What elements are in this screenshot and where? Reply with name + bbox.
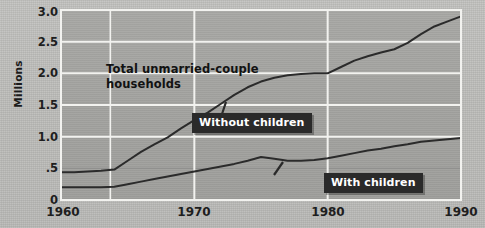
without-children-callout: Without children — [192, 113, 312, 133]
chart-screenshot: Millions 0 .5 1.0 1.5 2.0 2.5 3.0 1960 1… — [0, 0, 485, 228]
plot-area — [61, 10, 461, 200]
y-tick-1point5: 1.5 — [18, 98, 58, 112]
y-tick-0point5: .5 — [18, 161, 58, 175]
y-tick-1point0: 1.0 — [18, 130, 58, 144]
series-line-without-children — [61, 16, 461, 172]
x-tick-1960: 1960 — [46, 205, 79, 219]
y-tick-2point5: 2.5 — [18, 35, 58, 49]
x-tick-1990: 1990 — [444, 205, 477, 219]
y-tick-3point0: 3.0 — [18, 5, 58, 19]
x-tick-1970: 1970 — [177, 205, 210, 219]
x-tick-1980: 1980 — [311, 205, 344, 219]
with-children-callout: With children — [324, 173, 423, 193]
y-axis-ticks: 0 .5 1.0 1.5 2.0 2.5 3.0 — [12, 0, 58, 228]
chart-canvas — [61, 10, 461, 200]
y-tick-2point0: 2.0 — [18, 66, 58, 80]
total-households-label: Total unmarried-couple households — [106, 62, 259, 92]
